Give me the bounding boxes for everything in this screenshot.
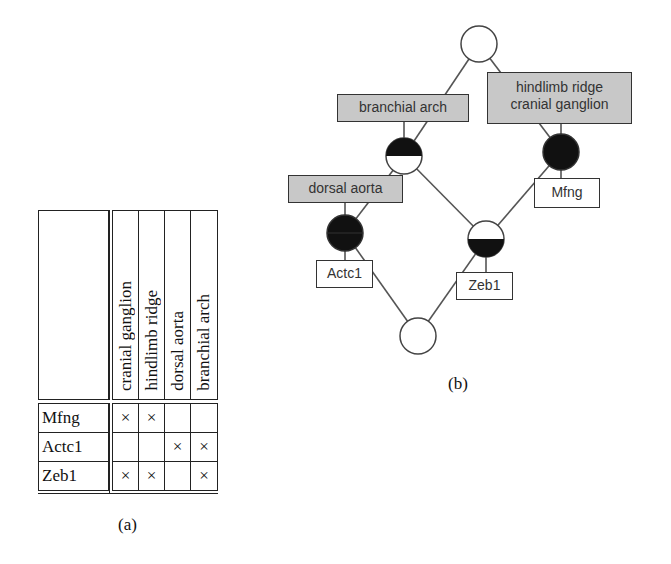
object-label-zeb1: Zeb1: [456, 272, 513, 300]
top-concept-node: [461, 26, 497, 62]
attribute-label-hindlimb-cranial: hindlimb ridge cranial ganglion: [487, 72, 632, 124]
label-text: Actc1: [327, 265, 362, 281]
label-text: branchial arch: [359, 99, 447, 115]
label-text: Zeb1: [469, 277, 501, 293]
object-label-actc1: Actc1: [316, 260, 373, 288]
attribute-label-dorsal-aorta: dorsal aorta: [288, 175, 403, 203]
attribute-label-branchial-arch: branchial arch: [337, 94, 469, 122]
label-text-line1: hindlimb ridge: [488, 79, 631, 96]
mfng-concept-node: [543, 134, 579, 170]
object-label-mfng: Mfng: [534, 178, 600, 208]
label-text: Mfng: [551, 184, 582, 200]
zeb1-concept-node: [468, 221, 504, 257]
label-text-line2: cranial ganglion: [488, 96, 631, 113]
bottom-concept-node: [400, 318, 436, 354]
actc1-concept-node: [327, 215, 363, 251]
branchial-arch-concept-node: [386, 138, 422, 174]
label-text: dorsal aorta: [309, 180, 383, 196]
caption-b: (b): [448, 374, 468, 394]
